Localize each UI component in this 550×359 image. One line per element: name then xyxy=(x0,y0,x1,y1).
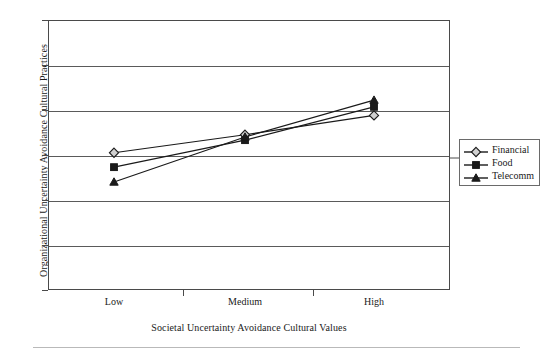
gridline xyxy=(49,246,449,247)
x-tick-label: Low xyxy=(69,296,159,307)
gridline xyxy=(49,66,449,67)
x-tick-label: High xyxy=(329,296,419,307)
y-tick-mark xyxy=(42,155,48,156)
diamond-icon xyxy=(463,144,489,156)
y-tick-mark xyxy=(42,20,48,21)
square-marker xyxy=(473,161,480,168)
footer-divider xyxy=(33,347,520,348)
chart-figure: Organizational Uncertainty Avoidance Cul… xyxy=(0,0,550,359)
legend-item-telecomm[interactable]: Telecomm xyxy=(463,169,534,182)
plot-area xyxy=(48,20,450,290)
legend-item-financial[interactable]: Financial xyxy=(463,143,534,156)
x-tick-mark xyxy=(183,290,184,296)
square-icon xyxy=(463,157,489,169)
y-tick-mark xyxy=(42,65,48,66)
chart-legend: FinancialFoodTelecomm xyxy=(459,139,540,186)
y-tick-mark xyxy=(42,290,48,291)
diamond-marker xyxy=(471,147,480,156)
legend-item-label: Food xyxy=(492,157,513,169)
y-axis-title: Organizational Uncertainty Avoidance Cul… xyxy=(38,36,49,286)
gridline xyxy=(49,111,449,112)
legend-item-label: Telecomm xyxy=(492,170,534,182)
legend-item-food[interactable]: Food xyxy=(463,156,534,169)
x-axis-title: Societal Uncertainty Avoidance Cultural … xyxy=(48,322,450,333)
gridline xyxy=(49,201,449,202)
y-tick-mark xyxy=(42,110,48,111)
x-tick-label: Medium xyxy=(200,296,290,307)
triangle-icon xyxy=(463,170,489,182)
gridline xyxy=(49,156,449,157)
y-tick-mark xyxy=(42,245,48,246)
y-tick-mark xyxy=(42,200,48,201)
legend-item-label: Financial xyxy=(492,144,529,156)
x-tick-mark xyxy=(313,290,314,296)
